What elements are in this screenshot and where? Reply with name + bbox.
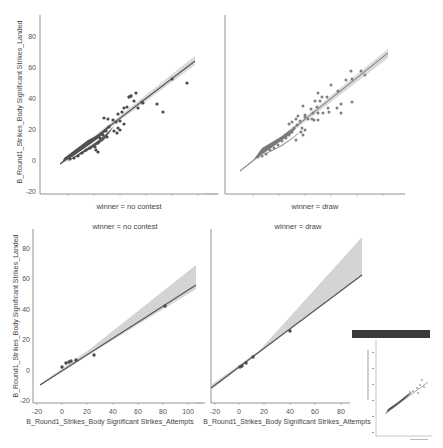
- x-tick: 20: [260, 408, 268, 415]
- x-tick: 0: [237, 408, 241, 415]
- panel-bottom-left: winner = no contest 80 60 40 20 0 -20 -2…: [12, 222, 204, 426]
- x-tick: -20: [210, 408, 220, 415]
- y-tick: 0: [32, 157, 36, 164]
- y-tick: 20: [22, 336, 30, 343]
- facet-scatter-figure: winner = no contest 80 60 40 20 0 -20 B_…: [0, 0, 443, 448]
- y-tick: 80: [28, 33, 36, 40]
- x-tick: 60: [134, 408, 142, 415]
- panel-top-left: winner = no contest 80 60 40 20 0 -20 B_…: [16, 15, 218, 211]
- panel-title: winner = draw: [274, 222, 322, 231]
- x-axis-label: B_Round1_Strikes_Body Significant Strike…: [203, 418, 371, 426]
- x-tick: 20: [83, 408, 91, 415]
- panel-title: winner = no contest: [95, 202, 162, 211]
- y-tick: 40: [28, 95, 36, 102]
- panel-top-right: winner = draw: [205, 15, 405, 211]
- x-tick: 0: [60, 408, 64, 415]
- y-tick: -20: [26, 188, 36, 195]
- x-tick: 80: [337, 408, 345, 415]
- y-tick: 20: [28, 126, 36, 133]
- x-tick: 80: [159, 408, 167, 415]
- panel-bottom-right: winner = draw -20 0 20 40 60 80 B_Round1…: [196, 222, 371, 426]
- y-tick: 60: [28, 64, 36, 71]
- panel-title: winner = draw: [291, 202, 339, 211]
- x-tick: -20: [32, 408, 42, 415]
- x-tick: 100: [182, 408, 194, 415]
- y-tick: 80: [22, 245, 30, 252]
- x-tick: 40: [109, 408, 117, 415]
- y-tick: 60: [22, 275, 30, 282]
- x-tick: 60: [311, 408, 319, 415]
- y-tick: 0: [26, 367, 30, 374]
- y-axis-label: B_Round1_Strikes_Body Significant Strike…: [16, 20, 24, 183]
- panel-title: winner = no contest: [91, 222, 158, 231]
- inset-header-bar: [352, 330, 430, 338]
- x-axis-label: B_Round1_Strikes_Body Significant Strike…: [26, 418, 194, 426]
- x-tick: 40: [286, 408, 294, 415]
- y-axis-label: B_Round1_Strikes_Body Significant Strike…: [12, 234, 20, 397]
- y-tick: 40: [22, 306, 30, 313]
- y-tick: -20: [20, 397, 30, 404]
